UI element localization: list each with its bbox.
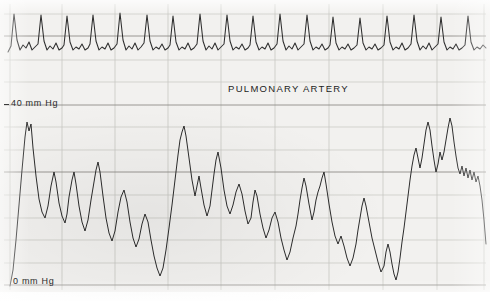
pressure-label-lower: 0 mm Hg — [13, 276, 54, 286]
pressure-label-upper: 40 mm Hg — [11, 98, 58, 108]
pressure-tick-40 — [4, 104, 9, 105]
pulmonary-artery-waveform — [10, 118, 486, 286]
recording-strip: 40 mm Hg 0 mm Hg PULMONARY ARTERY — [0, 0, 490, 301]
pressure-trace-layer — [0, 0, 490, 301]
chart-title: PULMONARY ARTERY — [228, 83, 349, 94]
